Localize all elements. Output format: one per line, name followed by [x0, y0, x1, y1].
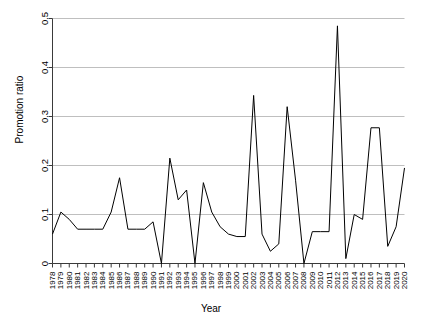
svg-text:0.4: 0.4	[39, 61, 50, 74]
x-axis-tick-labels: 1978197919801981198219831984198519861987…	[48, 271, 409, 289]
y-axis-tick-labels: 00.10.20.30.40.5	[39, 12, 50, 266]
gridlines	[53, 19, 405, 215]
x-axis-title: Year	[0, 303, 422, 314]
data-series-line	[53, 26, 405, 264]
x-axis-ticks	[53, 264, 405, 268]
chart-figure: 00.10.20.30.40.5 19781979198019811982198…	[0, 0, 422, 320]
svg-text:0: 0	[39, 261, 50, 266]
svg-text:2020: 2020	[400, 271, 409, 289]
svg-text:0.1: 0.1	[39, 208, 50, 221]
y-axis-title: Promotion ratio	[14, 55, 25, 165]
svg-text:0.3: 0.3	[39, 110, 50, 123]
svg-text:0.5: 0.5	[39, 12, 50, 25]
line-chart-plot: 00.10.20.30.40.5 19781979198019811982198…	[0, 0, 422, 320]
svg-text:0.2: 0.2	[39, 159, 50, 172]
y-axis-ticks	[49, 19, 53, 264]
